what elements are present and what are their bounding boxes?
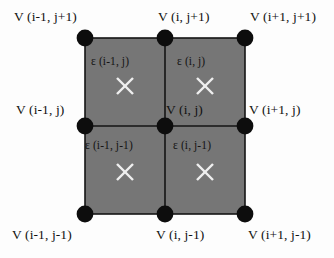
cell-label-bottom-right: ε (i, j-1) xyxy=(173,140,211,152)
cell-label-bottom-left: ε (i-1, j-1) xyxy=(85,140,133,152)
node-bottom-center xyxy=(157,206,174,223)
node-middle-center xyxy=(157,118,174,135)
node-label-bottom-left: V (i-1, j-1) xyxy=(12,228,72,242)
node-label-top-center: V (i, j+1) xyxy=(158,10,210,24)
node-label-middle-center: V (i, j) xyxy=(166,103,203,117)
node-top-center xyxy=(157,30,174,47)
node-top-right xyxy=(237,30,254,47)
node-label-middle-left: V (i-1, j) xyxy=(16,103,64,117)
cell-label-top-left: ε (i-1, j) xyxy=(91,56,129,68)
node-middle-left xyxy=(77,118,94,135)
node-bottom-right xyxy=(237,206,254,223)
node-bottom-left xyxy=(77,206,94,223)
grid-graphic xyxy=(0,0,334,258)
node-top-left xyxy=(77,30,94,47)
node-label-bottom-right: V (i+1, j-1) xyxy=(248,228,311,242)
node-label-top-right: V (i+1, j+1) xyxy=(250,10,316,24)
grid-stencil-diagram: V (i-1, j+1) V (i, j+1) V (i+1, j+1) V (… xyxy=(0,0,334,258)
node-label-top-left: V (i-1, j+1) xyxy=(14,10,77,24)
node-middle-right xyxy=(237,118,254,135)
node-label-middle-right: V (i+1, j) xyxy=(249,103,301,117)
node-label-bottom-center: V (i, j-1) xyxy=(156,228,204,242)
cell-label-top-right: ε (i, j) xyxy=(177,56,205,68)
